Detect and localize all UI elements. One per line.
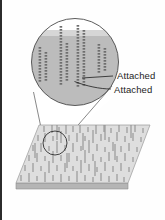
chain-column — [77, 25, 80, 87]
label-attached-bottom: Attached — [114, 85, 152, 95]
figure-root: Attached Attached — [0, 0, 165, 220]
slab-front-edge — [16, 183, 128, 189]
diagram-canvas — [0, 0, 165, 220]
label-attached-top: Attached — [117, 71, 155, 81]
substrate-slab — [16, 117, 150, 189]
